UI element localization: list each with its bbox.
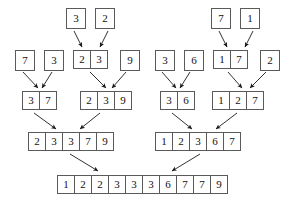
group-1-a: 7 (15, 50, 35, 71)
cell: 3 (22, 91, 40, 110)
cell: 9 (210, 175, 228, 194)
cell: 3 (44, 50, 64, 71)
group-1-b: 3 (44, 50, 64, 71)
arrow-merge-239-left (80, 113, 100, 129)
cell: 2 (95, 8, 115, 29)
cell: 9 (96, 132, 114, 151)
merge-sort-diagram: 3271732393617237239361272337912367122333… (0, 0, 297, 210)
arrow-2-into-cell (100, 31, 108, 47)
arrow-merge-127-right (216, 113, 237, 129)
cell: 3 (125, 175, 143, 194)
group-1-h: 2 (260, 50, 280, 71)
arrow-1-into-cell (245, 31, 253, 47)
arrow-final-left (70, 154, 98, 171)
cell: 2 (91, 175, 109, 194)
cell: 7 (211, 8, 231, 29)
cell: 3 (142, 175, 160, 194)
cell: 6 (159, 175, 177, 194)
group-1-c: 23 (73, 50, 108, 69)
cell: 6 (177, 91, 195, 110)
cell: 3 (160, 91, 178, 110)
cell: 3 (108, 175, 126, 194)
cell: 7 (79, 132, 97, 151)
group-0-a: 3 (66, 8, 86, 29)
arrow-merge-23-9 (90, 72, 106, 88)
arrow-7-into-cell (219, 31, 227, 47)
cell: 3 (62, 132, 80, 151)
cell: 3 (189, 132, 207, 151)
arrow-merge-37-left (34, 113, 56, 129)
group-0-c: 7 (211, 8, 231, 29)
arrow-merge-7-3 (23, 72, 38, 88)
arrow-3-into-cell (74, 31, 82, 47)
cell: 1 (57, 175, 75, 194)
cell: 2 (28, 132, 46, 151)
arrow-merge-6-36 (180, 72, 190, 88)
cell: 2 (260, 50, 280, 71)
group-2-c: 36 (160, 91, 195, 110)
arrow-merge-17-2 (228, 72, 242, 88)
group-1-f: 6 (184, 50, 204, 71)
group-2-a: 37 (22, 91, 57, 110)
cell: 7 (193, 175, 211, 194)
group-1-e: 3 (155, 50, 175, 71)
arrow-merge-3-7 (42, 72, 52, 88)
cell: 9 (120, 50, 140, 71)
arrow-merge-2-127 (250, 72, 266, 88)
cell: 2 (74, 175, 92, 194)
arrow-merge-3-6 (162, 72, 176, 88)
group-4-final: 1223336779 (57, 175, 228, 194)
arrow-merge-9-239 (112, 72, 126, 88)
cell: 2 (73, 50, 91, 69)
cell: 1 (155, 132, 173, 151)
cell: 2 (172, 132, 190, 151)
cell: 6 (206, 132, 224, 151)
cell: 9 (114, 91, 132, 110)
cell: 7 (246, 91, 264, 110)
cell: 3 (45, 132, 63, 151)
cell: 1 (213, 50, 231, 69)
cell: 7 (39, 91, 57, 110)
cell: 7 (223, 132, 241, 151)
group-2-b: 239 (80, 91, 132, 110)
group-0-b: 2 (95, 8, 115, 29)
cell: 1 (240, 8, 260, 29)
arrow-final-right (172, 154, 200, 171)
cell: 7 (15, 50, 35, 71)
group-3-b: 12367 (155, 132, 241, 151)
cell: 6 (184, 50, 204, 71)
cell: 3 (66, 8, 86, 29)
cell: 2 (80, 91, 98, 110)
cell: 7 (230, 50, 248, 69)
cell: 7 (176, 175, 194, 194)
cell: 1 (212, 91, 230, 110)
cell: 3 (97, 91, 115, 110)
arrow-merge-36-right (172, 113, 192, 129)
cell: 3 (155, 50, 175, 71)
cell: 2 (229, 91, 247, 110)
group-1-d: 9 (120, 50, 140, 71)
cell: 3 (90, 50, 108, 69)
group-2-d: 127 (212, 91, 264, 110)
group-1-g: 17 (213, 50, 248, 69)
group-3-a: 23379 (28, 132, 114, 151)
group-0-d: 1 (240, 8, 260, 29)
